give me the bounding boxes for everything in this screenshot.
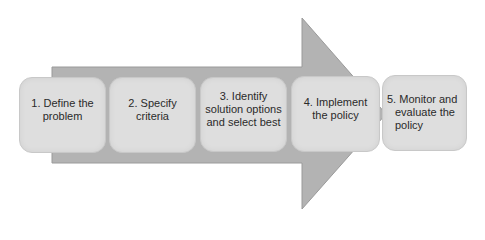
step-4-label: 4. Implement the policy (296, 96, 375, 122)
step-3-label: 3. Identify solution options and select … (205, 90, 282, 129)
step-3-box: 3. Identify solution options and select … (200, 77, 287, 152)
step-5-label: 5. Monitor and evaluate the policy (387, 93, 462, 132)
step-2-box: 2. Specify criteria (109, 77, 196, 153)
step-4-box: 4. Implement the policy (291, 76, 380, 152)
step-5-box: 5. Monitor and evaluate the policy (382, 75, 467, 151)
step-2-label: 2. Specify criteria (114, 97, 191, 123)
step-1-box: 1. Define the problem (19, 77, 106, 153)
step-1-label: 1. Define the problem (24, 97, 101, 123)
